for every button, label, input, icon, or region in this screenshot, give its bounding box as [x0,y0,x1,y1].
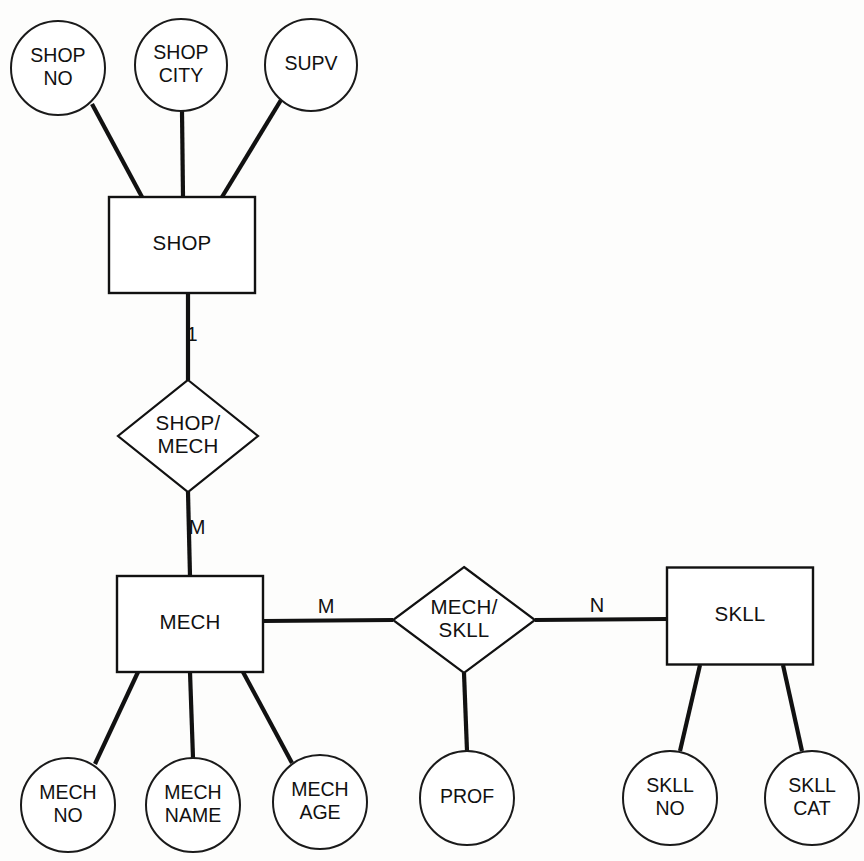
entity-mech[interactable]: MECH [117,576,263,672]
relationship-label-shop_mech: SHOP/ [156,411,221,434]
connector-mech-to-mech_skll [263,620,393,621]
attribute-skll_cat[interactable]: SKLLCAT [765,751,859,845]
attribute-supv[interactable]: SUPV [265,19,357,111]
connector-mech-to-mech_no [95,672,138,764]
connector-mech_skll-to-prof [464,673,467,751]
attribute-prof[interactable]: PROF [420,751,514,845]
attribute-label-mech_no: MECH [39,781,96,803]
entity-skll[interactable]: SKLL [667,568,813,665]
cardinality-card-mech-m: M [189,516,206,538]
attribute-label-mech_age: AGE [299,801,340,823]
connector-skll-to-skll_cat [783,665,802,751]
attribute-label-shop_no: SHOP [30,44,85,66]
connector-mech_skll-to-skll [535,619,667,620]
cardinality-labels-group: 1MMN [186,323,604,617]
entity-shop[interactable]: SHOP [109,197,255,293]
attribute-label-mech_age: MECH [291,778,348,800]
attribute-mech_name[interactable]: MECHNAME [146,758,240,852]
cardinality-card-skll-n: N [590,594,604,616]
attribute-label-shop_city: SHOP [153,41,208,63]
attribute-label-mech_name: NAME [165,804,221,826]
cardinality-card-shop-1: 1 [186,323,197,345]
attribute-label-shop_no: NO [43,67,72,89]
er-diagram-canvas: SHOPMECHSKLL SHOP/MECHMECH/SKLL SHOPNOSH… [0,0,864,861]
connector-mech-to-mech_name [190,672,193,758]
connector-skll-to-skll_no [680,665,700,751]
attribute-label-skll_no: NO [655,797,684,819]
cardinality-card-mech-skll-m: M [318,595,335,617]
entity-label-shop: SHOP [153,231,212,254]
attribute-label-skll_cat: SKLL [788,774,836,796]
relationship-label-shop_mech: MECH [157,434,218,457]
attribute-label-prof: PROF [440,785,494,807]
attribute-label-mech_name: MECH [164,781,221,803]
connector-shop_no-to-shop [92,104,142,197]
attribute-label-mech_no: NO [53,804,82,826]
attribute-mech_no[interactable]: MECHNO [21,758,115,852]
attribute-label-shop_city: CITY [159,64,203,86]
attribute-shop_city[interactable]: SHOPCITY [135,19,227,111]
connector-mech-to-mech_age [243,672,292,763]
entity-label-skll: SKLL [715,602,766,625]
relationship-label-mech_skll: SKLL [439,618,490,641]
attribute-label-skll_no: SKLL [646,774,694,796]
attribute-skll_no[interactable]: SKLLNO [623,751,717,845]
relationship-label-mech_skll: MECH/ [430,595,497,618]
attribute-label-supv: SUPV [284,52,337,74]
connector-supv-to-shop [222,100,281,197]
relationship-mech_skll[interactable]: MECH/SKLL [393,567,535,673]
attribute-label-skll_cat: CAT [793,797,831,819]
attribute-mech_age[interactable]: MECHAGE [273,755,367,849]
attribute-shop_no[interactable]: SHOPNO [11,21,105,115]
relationship-shop_mech[interactable]: SHOP/MECH [118,380,258,492]
connector-shop_city-to-shop [182,111,183,197]
entity-label-mech: MECH [159,610,220,633]
